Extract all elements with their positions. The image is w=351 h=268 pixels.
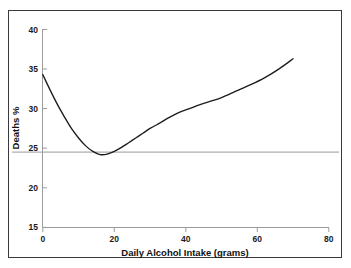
y-axis-title: Deaths % (10, 106, 21, 149)
y-tick-label-25: 25 (29, 143, 39, 153)
x-axis-title: Daily Alcohol Intake (grams) (121, 247, 248, 258)
x-tick-label-0: 0 (40, 234, 45, 244)
data-curve-deaths-percent (43, 59, 293, 155)
x-tick-label-40: 40 (181, 234, 191, 244)
chart-figure: 40 35 30 25 20 15 0 20 40 60 80 Daily Al… (0, 0, 351, 268)
y-tick-marks (43, 30, 48, 228)
chart-plot-area: 40 35 30 25 20 15 0 20 40 60 80 Daily Al… (0, 0, 351, 268)
y-tick-label-20: 20 (29, 183, 39, 193)
x-tick-label-20: 20 (110, 234, 120, 244)
y-tick-label-30: 30 (29, 104, 39, 114)
x-tick-marks (43, 228, 329, 233)
x-tick-label-60: 60 (253, 234, 263, 244)
y-tick-label-35: 35 (29, 64, 39, 74)
y-tick-label-40: 40 (29, 25, 39, 35)
y-tick-label-15: 15 (29, 222, 39, 232)
x-tick-label-80: 80 (324, 234, 334, 244)
